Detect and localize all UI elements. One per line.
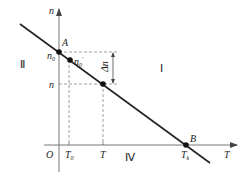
y-axis-label: n (49, 5, 54, 16)
x-axis-label: T (224, 149, 231, 160)
n0-label: n0 (47, 50, 55, 62)
t-label: T (100, 149, 107, 160)
origin-label: O (46, 149, 53, 160)
delta-n-label: Δn (99, 61, 110, 73)
point-n (100, 81, 106, 87)
n-T-diagram: Δn n T O A B n0 n0′ n T0 T Tk Ⅱ Ⅰ Ⅳ (0, 0, 241, 176)
tk-label: Tk (181, 149, 190, 161)
n-label: n (49, 79, 54, 90)
region-iv-label: Ⅳ (125, 151, 136, 163)
n0-prime-label: n0′ (74, 56, 84, 68)
region-ii-label: Ⅱ (20, 58, 25, 70)
point-a-label: A (61, 37, 69, 48)
main-line (20, 24, 210, 163)
region-i-label: Ⅰ (160, 62, 163, 74)
point-n0-prime (67, 57, 73, 63)
t0-label: T0 (65, 149, 74, 161)
point-b-label: B (190, 133, 196, 144)
point-b (183, 142, 189, 148)
point-a (56, 49, 62, 55)
